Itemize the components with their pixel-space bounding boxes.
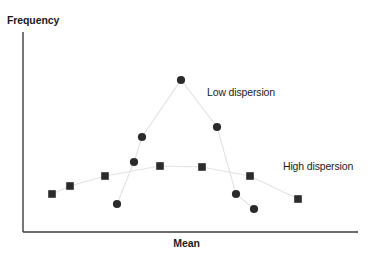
- low-dispersion-point: [177, 76, 185, 84]
- low-dispersion-point: [138, 133, 146, 141]
- high-dispersion-point: [48, 190, 56, 198]
- high-dispersion-point: [198, 163, 206, 171]
- low-dispersion-point: [250, 205, 258, 213]
- high-dispersion-point: [101, 172, 109, 180]
- low-dispersion-label: Low dispersion: [207, 86, 275, 98]
- low-dispersion-point: [213, 123, 221, 131]
- high-dispersion-label: High dispersion: [283, 160, 353, 172]
- axis-lines: [23, 32, 358, 232]
- x-axis-title: Mean: [0, 237, 373, 249]
- high-dispersion-connector-line: [52, 166, 298, 199]
- high-dispersion-connector: [52, 166, 298, 199]
- chart-figure: Frequency Low dispersion High dispersion…: [0, 0, 373, 262]
- high-dispersion-point: [294, 195, 302, 203]
- low-dispersion-connector: [117, 80, 254, 209]
- low-dispersion-point: [113, 200, 121, 208]
- low-dispersion-connector-line: [117, 80, 254, 209]
- high-dispersion-point: [66, 182, 74, 190]
- high-dispersion-point: [156, 162, 164, 170]
- low-dispersion-point: [130, 158, 138, 166]
- scatter-plot-canvas: [0, 0, 373, 262]
- low-dispersion-point: [232, 190, 240, 198]
- high-dispersion-point: [246, 172, 254, 180]
